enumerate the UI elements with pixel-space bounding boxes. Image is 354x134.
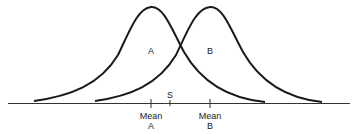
criterion-s-label: S: [167, 90, 173, 100]
distribution-diagram: A B S Mean A Mean B: [0, 0, 354, 134]
label-a: A: [148, 46, 154, 56]
label-b: B: [207, 46, 213, 56]
mean-b-label-line1: Mean: [199, 111, 222, 121]
mean-b-label-line2: B: [207, 121, 213, 131]
mean-a-label-line2: A: [148, 121, 154, 131]
mean-a-label-line1: Mean: [140, 111, 163, 121]
